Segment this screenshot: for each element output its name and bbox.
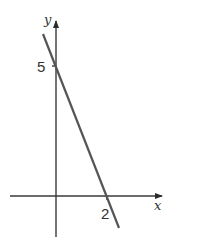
- line-graph: y x 5 2: [0, 0, 218, 246]
- y-axis-label: y: [43, 12, 52, 27]
- y-tick-label-5: 5: [37, 58, 45, 75]
- data-line: [43, 34, 119, 228]
- x-axis-label: x: [154, 198, 162, 213]
- x-tick-label-2: 2: [101, 205, 109, 222]
